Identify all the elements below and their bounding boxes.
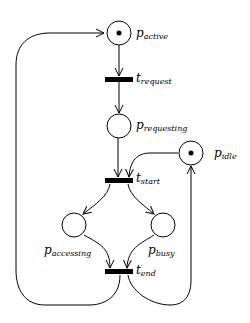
place-p_active: pactive — [107, 21, 168, 45]
arc-t_end-p_active — [16, 33, 120, 305]
svg-text:paccessing: paccessing — [44, 243, 91, 258]
svg-text:tstart: tstart — [136, 171, 161, 186]
transition-t_start: tstart — [105, 171, 161, 186]
svg-text:tend: tend — [136, 263, 156, 278]
transition-t_end: tend — [105, 263, 156, 278]
place-p_idle: pidle — [179, 141, 237, 165]
token-icon — [117, 31, 122, 36]
petri-net-diagram: pactive prequesting pidle paccessing pbu… — [0, 0, 250, 323]
token-icon — [189, 151, 194, 156]
transition-t_request: trequest — [105, 71, 173, 86]
place-p_requesting: prequesting — [107, 114, 187, 138]
svg-text:trequest: trequest — [136, 71, 173, 86]
svg-text:pbusy: pbusy — [148, 243, 175, 258]
place-p_busy: pbusy — [148, 213, 175, 258]
arc-t_start-p_busy — [128, 184, 154, 214]
svg-text:prequesting: prequesting — [136, 118, 187, 133]
svg-text:pactive: pactive — [136, 26, 168, 41]
arc-t_start-p_accessing — [83, 184, 110, 214]
svg-text:pidle: pidle — [214, 146, 237, 161]
